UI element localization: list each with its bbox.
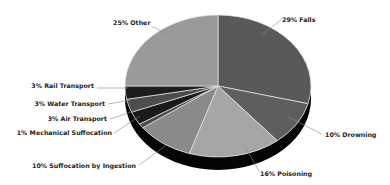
- label-falls: 29% Falls: [282, 16, 316, 23]
- label-suffocation-by-ingestion: 10% Suffocation by Ingestion: [32, 162, 136, 170]
- label-rail-transport: 3% Rail Transport: [31, 82, 94, 90]
- label-mechanical-suffocation: 1% Mechanical Suffocation: [17, 129, 112, 136]
- label-poisoning: 16% Poisoning: [260, 170, 312, 178]
- label-water-transport: 3% Water Transport: [34, 100, 105, 108]
- pie-slices: [125, 15, 311, 157]
- label-other: 25% Other: [113, 19, 151, 26]
- label-drowning: 10% Drowning: [325, 131, 376, 139]
- label-air-transport: 3% Air Transport: [48, 115, 107, 123]
- pie-chart: 29% Falls10% Drowning16% Poisoning10% Su…: [0, 0, 390, 185]
